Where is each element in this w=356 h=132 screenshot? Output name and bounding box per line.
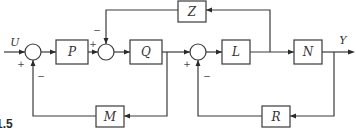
wire-m-to-s1 — [33, 60, 96, 116]
arrowhead-into-s3 — [184, 50, 190, 55]
wire-r-to-s3 — [198, 60, 262, 116]
block-p-label: P — [67, 45, 77, 59]
block-l: L — [222, 40, 250, 64]
sign-s3-feedback: − — [203, 71, 211, 81]
arrowhead-into-m — [124, 114, 130, 119]
arrowhead-output-y — [348, 50, 355, 55]
arrowhead-into-s3-bottom — [196, 60, 201, 66]
arrowhead-into-s1 — [19, 50, 25, 55]
sign-s3-from-q: + — [183, 59, 191, 69]
output-signal-label: Y — [339, 34, 348, 47]
arrowhead-into-z — [206, 8, 212, 13]
block-p: P — [56, 40, 88, 64]
summing-junction-3 — [190, 44, 206, 60]
block-q: Q — [130, 40, 162, 64]
arrowhead-into-l — [216, 50, 222, 55]
arrowhead-into-s2 — [92, 50, 98, 55]
block-r: R — [262, 106, 290, 127]
block-diagram: P Q L N Z M R U Y + − + − + − 1.5 — [0, 0, 356, 132]
sign-s2-feedback: − — [93, 25, 101, 35]
arrowhead-into-n — [288, 50, 294, 55]
arrowhead-into-s2-top — [104, 38, 109, 44]
arrowhead-into-q — [124, 50, 130, 55]
block-z-label: Z — [187, 5, 197, 19]
sign-s2-from-p: + — [89, 39, 97, 49]
arrowhead-into-s1-bottom — [31, 60, 36, 66]
block-n: N — [294, 40, 322, 64]
wire-z-to-s2 — [106, 10, 178, 44]
block-m-label: M — [103, 110, 117, 124]
block-z: Z — [178, 1, 206, 22]
block-m: M — [96, 106, 124, 127]
sign-s1-feedback: − — [37, 71, 45, 81]
block-q-label: Q — [141, 45, 151, 59]
arrowhead-into-p — [50, 50, 56, 55]
input-signal-label: U — [10, 36, 20, 49]
block-n-label: N — [302, 45, 314, 59]
figure-label: 1.5 — [0, 117, 13, 131]
arrowhead-into-r — [290, 114, 296, 119]
summing-junction-2 — [98, 44, 114, 60]
block-r-label: R — [270, 110, 280, 124]
sign-s1-input: + — [17, 59, 25, 69]
summing-junction-1 — [25, 44, 41, 60]
block-l-label: L — [231, 45, 240, 59]
